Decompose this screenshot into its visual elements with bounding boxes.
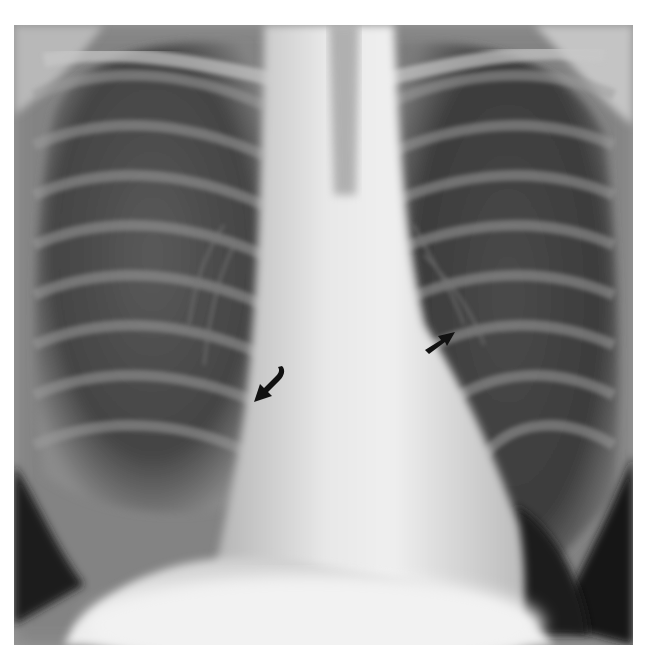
annotation-arrow-up-right-icon <box>421 328 459 356</box>
xray-rendering <box>14 25 633 645</box>
annotation-arrow-down-left-icon <box>246 362 296 412</box>
chest-xray-image <box>14 25 633 645</box>
